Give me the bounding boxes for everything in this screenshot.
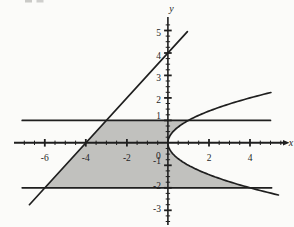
graph-svg: -6-4-202454321-1-2-3xy [0, 0, 294, 227]
y-tick-label: 5 [156, 28, 161, 38]
y-axis-letter-label: y [168, 3, 174, 14]
y-tick-label: 2 [156, 95, 161, 105]
x-axis-letter-label: x [288, 137, 294, 148]
y-tick-label: 4 [156, 51, 161, 61]
y-tick-label: -3 [153, 204, 161, 214]
y-tick-label: -2 [153, 181, 161, 191]
inequality-region-figure: -6-4-202454321-1-2-3xy [0, 0, 294, 227]
y-tick-label: 3 [156, 73, 161, 83]
y-tick-label: -1 [153, 156, 161, 166]
x-tick-label: -6 [41, 153, 49, 163]
paper-background [0, 0, 294, 227]
x-tick-label: 4 [248, 153, 253, 163]
x-tick-label: -2 [123, 153, 131, 163]
y-tick-label: 1 [156, 111, 161, 121]
x-tick-label: -4 [82, 153, 90, 163]
x-tick-label: 2 [207, 153, 212, 163]
